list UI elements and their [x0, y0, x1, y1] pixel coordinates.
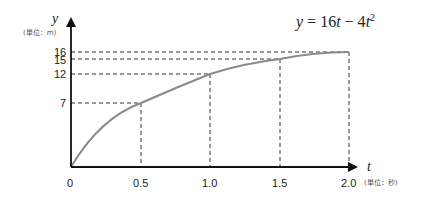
y-tick-7: 7 — [60, 97, 66, 109]
x-tick-1.5: 1.5 — [272, 177, 287, 189]
y-axis-label: y — [50, 11, 59, 26]
x-tick-2.0: 2.0 — [341, 177, 356, 189]
eq-exp: 2 — [370, 12, 375, 23]
x-tick-0.5: 0.5 — [133, 177, 148, 189]
x-tick-1.0: 1.0 — [202, 177, 217, 189]
eq-minus: − 4 — [341, 13, 366, 30]
x-tick-0: 0 — [67, 177, 73, 189]
y-unit-label: (単位：m) — [23, 28, 57, 37]
y-axis-arrow-icon — [66, 17, 76, 27]
guide-lines — [71, 52, 349, 167]
eq-mid: = 16 — [303, 13, 336, 30]
y-tick-15: 15 — [54, 54, 66, 66]
x-unit-label: (単位：秒) — [364, 178, 398, 187]
equation-label: y = 16t − 4t2 — [296, 12, 375, 31]
x-axis-label: t — [367, 159, 372, 174]
x-axis-arrow-icon — [348, 162, 358, 172]
y-tick-12: 12 — [54, 68, 66, 80]
